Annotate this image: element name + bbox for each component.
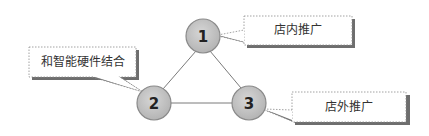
edge-1-2 [163,51,196,89]
node-2: 2 [137,86,171,120]
node-3-label: 3 [244,95,254,113]
edges [163,51,241,103]
callout-3-text: 店外推广 [292,100,406,114]
node-3: 3 [232,86,266,120]
node-1: 1 [186,19,220,53]
edge-3-1 [210,51,241,88]
callout-2 [29,47,143,92]
callout-1-text: 店内推广 [244,23,352,37]
node-2-label: 2 [149,95,159,113]
callout-2-text: 和智能硬件结合 [29,55,136,69]
node-1-label: 1 [198,28,208,46]
